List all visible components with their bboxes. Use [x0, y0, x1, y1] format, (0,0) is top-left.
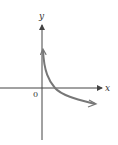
- origin-label: 0: [33, 90, 38, 99]
- x-axis-label: x: [105, 83, 110, 93]
- graph-canvas: y x 0: [0, 0, 118, 145]
- y-axis-label: y: [38, 11, 45, 21]
- log-curve: [43, 50, 95, 104]
